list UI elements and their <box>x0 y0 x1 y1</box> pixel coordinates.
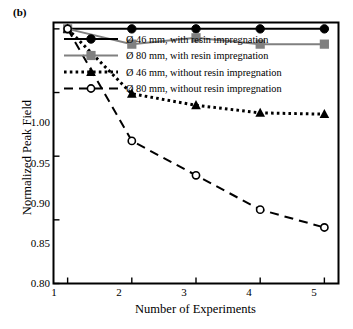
series-circle-filled <box>63 25 328 33</box>
legend-item: Ø 46 mm, without resin impregnation <box>64 67 282 78</box>
legend-label: Ø 80 mm, without resin impregnation <box>126 83 282 94</box>
legend-item: Ø 80 mm, without resin impregnation <box>64 83 282 94</box>
plot-frame <box>54 23 339 284</box>
plot-canvas: Ø 46 mm, with resin impregnationØ 80 mm,… <box>0 0 353 329</box>
chart-legend: Ø 46 mm, with resin impregnationØ 80 mm,… <box>64 34 282 95</box>
legend-label: Ø 46 mm, without resin impregnation <box>126 67 282 78</box>
legend-item: Ø 80 mm, with resin impregnation <box>64 50 268 61</box>
legend-label: Ø 46 mm, with resin impregnation <box>126 34 268 45</box>
legend-label: Ø 80 mm, with resin impregnation <box>126 50 268 61</box>
figure-panel: (b) Normalized Peak Field Number of Expe… <box>0 0 353 329</box>
